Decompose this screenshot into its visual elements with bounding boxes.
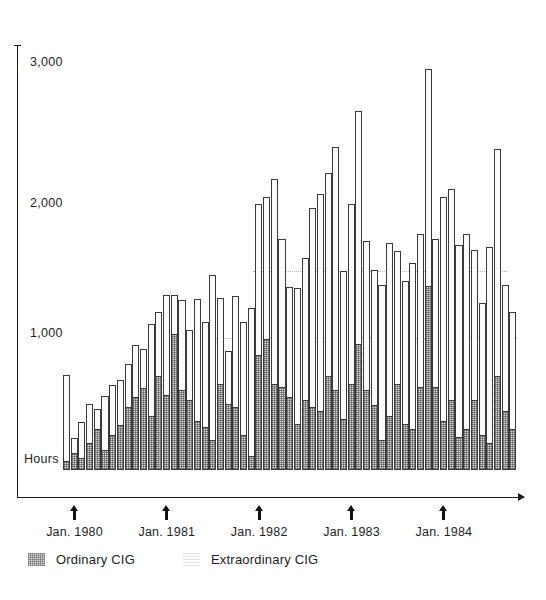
bar-column bbox=[409, 263, 416, 470]
bar-column bbox=[209, 275, 216, 470]
bar-segment-extraordinary bbox=[371, 270, 378, 406]
bar-segment-extraordinary bbox=[94, 409, 101, 430]
y-axis-label-hours: Hours bbox=[24, 452, 59, 466]
bar-segment-ordinary bbox=[255, 356, 262, 470]
bar-column bbox=[202, 322, 209, 470]
bar-segment-ordinary bbox=[417, 388, 424, 470]
bar-segment-ordinary bbox=[386, 417, 393, 470]
bar-segment-extraordinary bbox=[294, 288, 301, 424]
bar-column bbox=[171, 295, 178, 470]
bar-segment-extraordinary bbox=[148, 324, 155, 417]
bar-segment-extraordinary bbox=[286, 287, 293, 398]
bar-segment-extraordinary bbox=[425, 69, 432, 288]
y-axis-tick-1000: 1,000 bbox=[30, 326, 63, 340]
bar-segment-ordinary bbox=[394, 385, 401, 470]
bar-segment-ordinary bbox=[371, 406, 378, 470]
bar-segment-extraordinary bbox=[302, 258, 309, 401]
x-axis-year-label: Jan. 1983 bbox=[318, 525, 386, 539]
bar-column bbox=[325, 173, 332, 470]
legend-label-extraordinary: Extraordinary CIG bbox=[211, 552, 318, 567]
bar-segment-ordinary bbox=[194, 422, 201, 470]
bar-segment-ordinary bbox=[263, 340, 270, 470]
bar-column bbox=[294, 288, 301, 470]
bar-segment-extraordinary bbox=[448, 189, 455, 401]
y-axis-cap bbox=[14, 45, 21, 46]
bar-column bbox=[286, 287, 293, 470]
bar-column bbox=[455, 245, 462, 470]
bar-segment-ordinary bbox=[140, 389, 147, 470]
bar-segment-ordinary bbox=[302, 401, 309, 470]
bar-column bbox=[217, 298, 224, 470]
bar-segment-ordinary bbox=[325, 377, 332, 470]
bar-segment-ordinary bbox=[455, 438, 462, 470]
bar-segment-extraordinary bbox=[209, 275, 216, 441]
bar-column bbox=[194, 299, 201, 470]
bar-column bbox=[78, 422, 85, 470]
up-arrow-stem bbox=[165, 509, 168, 520]
bar-segment-extraordinary bbox=[394, 251, 401, 385]
up-arrow-stem bbox=[73, 509, 76, 520]
bar-segment-extraordinary bbox=[386, 243, 393, 417]
bar-segment-ordinary bbox=[286, 398, 293, 470]
bar-column bbox=[463, 234, 470, 470]
chart-legend: Ordinary CIG Extraordinary CIG bbox=[28, 552, 366, 567]
bar-column bbox=[340, 271, 347, 470]
bar-segment-ordinary bbox=[448, 401, 455, 470]
bar-segment-extraordinary bbox=[309, 208, 316, 408]
bar-segment-extraordinary bbox=[232, 296, 239, 407]
bar-segment-ordinary bbox=[148, 417, 155, 470]
bar-segment-extraordinary bbox=[125, 364, 132, 408]
bar-segment-ordinary bbox=[479, 436, 486, 470]
bar-column bbox=[378, 285, 385, 471]
bar-segment-extraordinary bbox=[325, 173, 332, 377]
bar-column bbox=[117, 380, 124, 470]
bar-segment-ordinary bbox=[363, 391, 370, 471]
bar-segment-extraordinary bbox=[479, 303, 486, 436]
bar-column bbox=[71, 438, 78, 470]
bar-segment-extraordinary bbox=[486, 247, 493, 443]
bar-segment-extraordinary bbox=[78, 422, 85, 459]
bar-segment-ordinary bbox=[278, 388, 285, 470]
bar-segment-extraordinary bbox=[225, 351, 232, 405]
x-axis-arrow-icon bbox=[518, 493, 525, 501]
bar-column bbox=[348, 204, 355, 470]
bar-segment-extraordinary bbox=[340, 271, 347, 419]
bar-segment-extraordinary bbox=[317, 194, 324, 411]
bar-column bbox=[494, 149, 501, 470]
stacked-bar-chart: 3,000 2,000 1,000 Hours Jan. 1980Jan. 19… bbox=[0, 0, 546, 600]
bar-segment-ordinary bbox=[117, 426, 124, 470]
bar-segment-ordinary bbox=[271, 385, 278, 470]
bar-segment-ordinary bbox=[186, 401, 193, 470]
bar-segment-extraordinary bbox=[140, 349, 147, 389]
bar-column bbox=[132, 345, 139, 470]
bar-segment-ordinary bbox=[132, 398, 139, 470]
bar-segment-ordinary bbox=[294, 425, 301, 470]
bar-segment-extraordinary bbox=[355, 111, 362, 346]
bar-segment-ordinary bbox=[86, 444, 93, 471]
bar-segment-extraordinary bbox=[463, 234, 470, 430]
bar-segment-ordinary bbox=[440, 422, 447, 470]
bar-segment-ordinary bbox=[232, 408, 239, 470]
bar-segment-extraordinary bbox=[502, 285, 509, 412]
x-axis-line bbox=[17, 497, 524, 498]
bar-column bbox=[63, 375, 70, 470]
bar-column bbox=[155, 312, 162, 470]
bar-column bbox=[402, 281, 409, 470]
bar-segment-extraordinary bbox=[455, 245, 462, 438]
bar-segment-ordinary bbox=[202, 428, 209, 470]
bar-segment-extraordinary bbox=[417, 234, 424, 388]
legend-item-ordinary: Ordinary CIG bbox=[28, 552, 135, 567]
bar-segment-ordinary bbox=[471, 401, 478, 470]
bar-segment-extraordinary bbox=[348, 204, 355, 386]
bar-column bbox=[417, 234, 424, 470]
bar-column bbox=[186, 330, 193, 470]
up-arrow-stem bbox=[350, 509, 353, 520]
bar-segment-ordinary bbox=[332, 391, 339, 471]
bar-column bbox=[101, 396, 108, 470]
bar-column bbox=[386, 243, 393, 470]
bar-column bbox=[479, 303, 486, 470]
bar-segment-ordinary bbox=[502, 412, 509, 470]
bar-segment-extraordinary bbox=[432, 239, 439, 387]
bar-column bbox=[163, 295, 170, 470]
bar-segment-ordinary bbox=[78, 459, 85, 470]
